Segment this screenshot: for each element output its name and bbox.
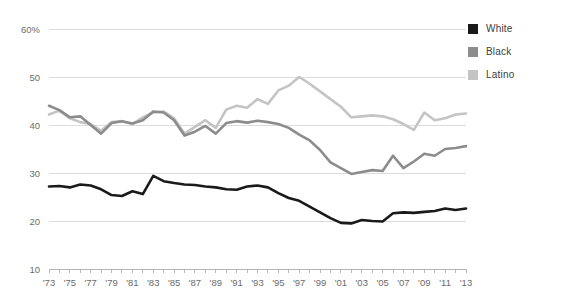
legend-swatch-white [468,24,478,34]
svg-text:'81: '81 [126,277,138,288]
legend-swatch-black [468,47,478,57]
svg-text:'97: '97 [293,277,305,288]
svg-text:'99: '99 [314,277,326,288]
y-axis-labels: 102030405060% [21,24,41,275]
gridlines [49,29,466,269]
chart-legend: White Black Latino [468,18,560,87]
svg-text:'09: '09 [418,277,430,288]
legend-swatch-latino [468,70,478,80]
svg-text:'83: '83 [147,277,159,288]
legend-item-white: White [468,18,560,39]
svg-text:'79: '79 [105,277,117,288]
svg-text:'75: '75 [64,277,76,288]
legend-label-black: Black [486,46,511,57]
svg-text:'87: '87 [189,277,201,288]
svg-text:'73: '73 [43,277,55,288]
svg-text:20: 20 [29,216,40,227]
svg-text:'13: '13 [460,277,472,288]
legend-label-latino: Latino [486,69,514,80]
line-chart: 102030405060% '73'75'77'79'81'83'85'87'8… [0,0,572,304]
x-axis-labels: '73'75'77'79'81'83'85'87'89'91'93'95'97'… [43,277,472,288]
legend-item-black: Black [468,41,560,62]
x-axis-ticks [49,269,466,273]
svg-text:'07: '07 [397,277,409,288]
svg-text:'95: '95 [272,277,284,288]
svg-text:'03: '03 [356,277,368,288]
legend-label-white: White [486,23,513,34]
svg-text:'85: '85 [168,277,180,288]
svg-text:40: 40 [29,120,40,131]
svg-text:30: 30 [29,168,40,179]
svg-text:'11: '11 [439,277,451,288]
svg-text:'89: '89 [210,277,222,288]
svg-text:50: 50 [29,72,40,83]
svg-text:'01: '01 [335,277,347,288]
svg-text:'77: '77 [85,277,97,288]
svg-text:'05: '05 [376,277,388,288]
legend-item-latino: Latino [468,64,560,85]
series-lines [49,77,466,223]
svg-text:60%: 60% [21,24,41,35]
svg-text:10: 10 [29,264,40,275]
svg-text:'93: '93 [251,277,263,288]
svg-text:'91: '91 [230,277,242,288]
